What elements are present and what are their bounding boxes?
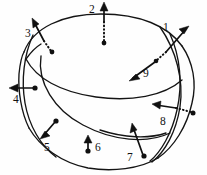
vector-7-tail-dot — [141, 153, 146, 158]
vector-3-arrowhead — [32, 18, 39, 28]
vector-5-tail-dot — [53, 118, 58, 123]
vector-6 — [84, 135, 92, 154]
vector-label-1: 1 — [163, 22, 169, 34]
vector-3-dotted-tail — [44, 41, 51, 51]
vector-5 — [40, 118, 59, 139]
vector-label-9: 9 — [143, 68, 149, 80]
vector-5-arrowhead — [40, 131, 50, 139]
vector-label-2: 2 — [89, 4, 95, 16]
vector-6-tail-dot — [85, 148, 90, 153]
vector-label-6: 6 — [95, 142, 101, 154]
vector-1-arrowhead — [179, 26, 189, 34]
vector-9-tail-dot — [154, 59, 159, 64]
vector-1-dotted-tail — [157, 52, 166, 60]
vector-1 — [157, 26, 189, 60]
right-tube-edge-outer — [152, 27, 181, 162]
vector-label-7: 7 — [127, 152, 133, 164]
vector-8-arrowhead — [152, 101, 161, 109]
vector-3-tail-dot — [50, 50, 55, 55]
vector-2 — [100, 2, 108, 45]
vector-4-arrowhead — [9, 84, 18, 92]
surface-diagram — [0, 0, 207, 175]
vector-label-4: 4 — [13, 94, 19, 106]
vector-label-3: 3 — [25, 28, 31, 40]
vector-label-5: 5 — [44, 142, 50, 154]
figure-canvas: 1 2 3 4 5 6 7 8 9 — [0, 0, 207, 175]
vector-4-tail-dot — [32, 85, 37, 90]
vector-7-arrowhead — [130, 123, 137, 133]
vector-2-arrowhead — [100, 2, 108, 11]
vector-2-tail-dot — [102, 41, 107, 46]
vector-8-dotted-tail — [176, 108, 191, 112]
band-upper-edge — [26, 59, 182, 99]
vector-6-arrowhead — [84, 135, 92, 143]
vector-8-tail-dot — [191, 111, 196, 116]
vector-label-8: 8 — [160, 116, 166, 128]
outer-right-arc — [158, 46, 194, 158]
